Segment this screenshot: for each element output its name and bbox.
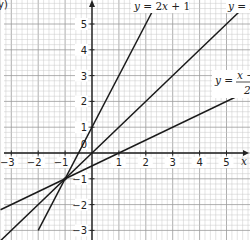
label-y-2x-plus-1: y = 2x + 1 [131, 0, 190, 13]
y-tick-label: 5 [81, 19, 87, 30]
partial-label: y) [0, 0, 8, 10]
intersection-point [64, 177, 67, 180]
svg-text:y =: y = [214, 74, 233, 86]
y-tick-label: −1 [72, 174, 87, 185]
series-line-1 [1, 9, 243, 240]
y-tick-label: 4 [81, 45, 87, 56]
y-tick-label: −3 [72, 225, 87, 236]
y-tick-label: 3 [81, 71, 87, 82]
x-axis-label: x [241, 155, 247, 167]
label-y-x-minus-1-over-2: y = x − 2 [212, 69, 250, 98]
y-tick-label: −2 [72, 200, 87, 211]
fraction-denominator: 2 [243, 84, 250, 96]
x-tick-label: 5 [223, 157, 229, 168]
label-y-equals-x: y = x [226, 0, 250, 13]
x-tick-label: 2 [143, 157, 149, 168]
y-tick-label: 2 [81, 96, 87, 107]
fraction-numerator: x − [237, 69, 250, 81]
x-tick-label: −2 [27, 157, 42, 168]
svg-text:y = 2x + 1: y = 2x + 1 [133, 0, 190, 12]
y-tick-label: 1 [81, 122, 87, 133]
x-tick-label: −3 [0, 157, 15, 168]
svg-text:y = x: y = x [227, 0, 250, 12]
x-tick-label: 1 [116, 157, 122, 168]
linear-graphs-chart: −3−2−112345−3−2−1123450x y = 2x + 1 y = … [0, 0, 250, 240]
equation-labels: y = 2x + 1 y = x y = x − 2 y) [0, 0, 250, 98]
x-tick-label: 3 [170, 157, 176, 168]
x-tick-label: 4 [196, 157, 202, 168]
series-line-0 [38, 9, 154, 231]
x-tick-label: −1 [54, 157, 69, 168]
